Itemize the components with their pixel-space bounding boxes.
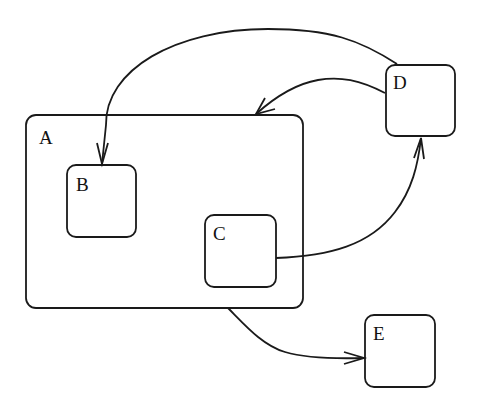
state-c[interactable]: C: [205, 215, 276, 287]
state-d[interactable]: D: [386, 65, 455, 136]
state-a-label: A: [39, 127, 53, 148]
transition-d-to-a[interactable]: [256, 79, 385, 114]
state-e-label: E: [373, 323, 385, 344]
edge-d-to-a: [256, 79, 385, 114]
state-c-label: C: [213, 223, 226, 244]
state-b-label: B: [76, 174, 89, 195]
transition-a-to-e[interactable]: [228, 308, 364, 364]
edge-a-to-e: [228, 308, 364, 358]
state-e[interactable]: E: [365, 315, 435, 387]
statechart-diagram: A B C D E: [0, 0, 480, 402]
state-b[interactable]: B: [67, 165, 136, 237]
state-d-label: D: [393, 72, 407, 93]
